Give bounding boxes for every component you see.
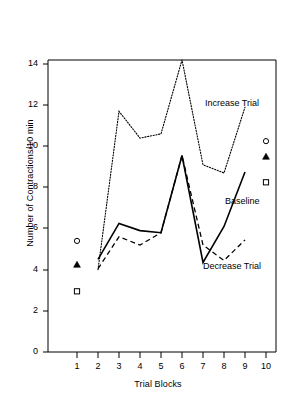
x-axis-title: Trial Blocks (40, 379, 276, 389)
series-increase-trial-line (98, 60, 245, 270)
y-axis-ticks (43, 64, 48, 352)
y-tick-label-2: 2 (20, 305, 38, 315)
baseline-marker-block10 (263, 153, 270, 159)
x-tick-label-10: 10 (257, 361, 275, 371)
x-tick-label-6: 6 (173, 361, 191, 371)
x-tick-label-1: 1 (68, 361, 86, 371)
increase-marker-block1 (74, 238, 79, 243)
x-tick-label-8: 8 (215, 361, 233, 371)
x-tick-label-9: 9 (236, 361, 254, 371)
series-label-baseline: Baseline (225, 196, 260, 206)
decrease-marker-block10 (263, 180, 268, 185)
chart-figure: 14 12 10 8 6 4 2 0 1 2 3 4 5 6 7 8 9 10 … (0, 0, 292, 403)
x-tick-label-4: 4 (131, 361, 149, 371)
x-tick-label-5: 5 (152, 361, 170, 371)
decrease-marker-block1 (74, 289, 79, 294)
x-tick-label-3: 3 (110, 361, 128, 371)
markers-block-1 (74, 238, 81, 294)
markers-block-10 (263, 139, 270, 185)
x-tick-label-2: 2 (89, 361, 107, 371)
baseline-marker-block1 (74, 261, 81, 267)
series-label-increase-trial: Increase Trial (205, 98, 259, 108)
series-baseline-line (98, 156, 245, 263)
y-axis-title: Number of Contractions/10 min (25, 98, 35, 268)
y-tick-label-14: 14 (20, 58, 38, 68)
x-axis-ticks (77, 352, 266, 358)
x-tick-label-7: 7 (194, 361, 212, 371)
series-label-decrease-trial: Decrease Trial (203, 261, 261, 271)
y-tick-label-0: 0 (20, 346, 38, 356)
increase-marker-block10 (263, 139, 268, 144)
